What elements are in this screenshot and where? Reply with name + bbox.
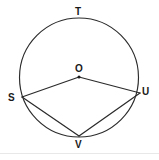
point-label-S: S xyxy=(8,93,15,103)
point-label-U: U xyxy=(142,87,149,97)
point-label-V: V xyxy=(75,140,82,150)
segment-OU xyxy=(79,77,140,93)
point-label-O: O xyxy=(75,64,83,74)
geometry-figure: T O S U V xyxy=(0,0,159,160)
circle-geometry-svg xyxy=(0,0,159,160)
segment-UV xyxy=(79,93,140,136)
point-label-T: T xyxy=(75,7,81,17)
center-point-marker-O xyxy=(78,76,81,79)
segment-OS xyxy=(22,77,79,97)
